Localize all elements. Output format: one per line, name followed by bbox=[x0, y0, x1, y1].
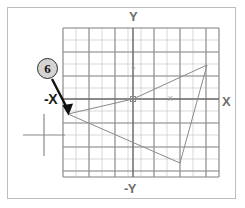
axis-label-negative-x: -X bbox=[44, 92, 57, 106]
grid-minor-lines bbox=[63, 28, 219, 177]
segment-apex-to-lower-right bbox=[180, 65, 207, 163]
crosshair-cursor[interactable] bbox=[23, 114, 65, 156]
drawing-canvas bbox=[0, 0, 245, 208]
axis-label-negative-y: -Y bbox=[124, 182, 136, 195]
segment-origin-to-apex bbox=[133, 65, 207, 99]
axis-label-y: Y bbox=[129, 10, 137, 23]
segment-picked-point-to-origin bbox=[68, 99, 133, 114]
callout-arrow-head bbox=[62, 104, 73, 116]
ucs-label-x: X bbox=[168, 95, 173, 102]
cad-screenshot: Y -Y X -X Y X 6 bbox=[0, 0, 245, 208]
callout-badge-number: 6 bbox=[44, 62, 51, 76]
segment-lower-right-to-picked-point bbox=[68, 114, 180, 163]
ucs-label-y: Y bbox=[131, 66, 136, 73]
axis-label-x: X bbox=[222, 95, 230, 108]
callout-badge: 6 bbox=[37, 58, 58, 79]
